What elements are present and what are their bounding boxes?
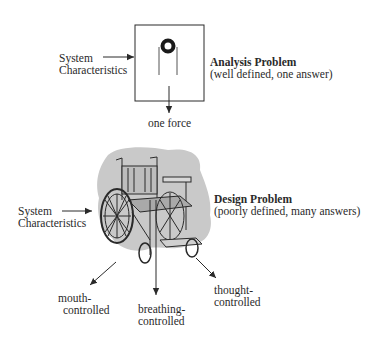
mouth-controlled-label: mouth- controlled <box>58 292 110 316</box>
thought-output-arrow <box>196 258 216 278</box>
analysis-title: Analysis Problem <box>210 56 296 68</box>
design-input-label-line1: System <box>18 205 86 217</box>
breathing-controlled-label: breathing- controlled <box>138 303 185 327</box>
thought-controlled-label: thought- controlled <box>214 284 261 308</box>
diagram-graphics <box>0 0 371 342</box>
mouth-output-arrow <box>90 262 116 285</box>
mouth-label-line2: controlled <box>58 304 110 316</box>
breathing-label-line1: breathing- <box>138 303 185 315</box>
analysis-subtitle: (well defined, one answer) <box>210 68 333 80</box>
analysis-input-label-line2: Characteristics <box>59 64 127 76</box>
design-subtitle: (poorly defined, many answers) <box>214 205 360 217</box>
design-input-label: System Characteristics <box>18 205 86 229</box>
analysis-output-label: one force <box>148 117 191 129</box>
design-title: Design Problem <box>214 193 292 205</box>
analysis-input-label-line1: System <box>59 52 127 64</box>
thought-label-line2: controlled <box>214 296 261 308</box>
design-input-label-line2: Characteristics <box>18 217 86 229</box>
analysis-input-label: System Characteristics <box>59 52 127 76</box>
thought-label-line1: thought- <box>214 284 261 296</box>
breathing-label-line2: controlled <box>138 315 185 327</box>
mouth-label-line1: mouth- <box>58 292 110 304</box>
